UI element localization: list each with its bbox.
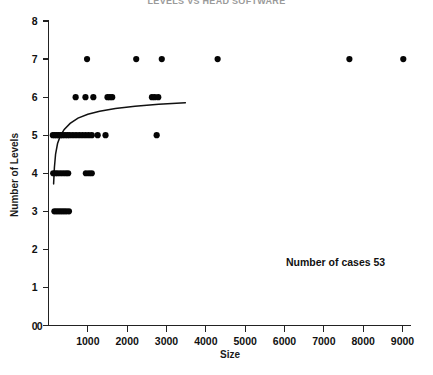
data-point (95, 132, 101, 138)
x-tick-label: 4000 (194, 335, 218, 347)
data-point (155, 94, 161, 100)
x-tick-label: 9000 (391, 335, 415, 347)
data-point (89, 170, 95, 176)
y-tick-label: 4 (32, 167, 38, 179)
y-tick-label: 8 (32, 15, 38, 27)
axis-lines (49, 21, 412, 326)
plot-canvas: 012345678 010002000300040005000600070008… (0, 0, 433, 375)
fit-curve (54, 103, 186, 184)
y-tick-label: 3 (32, 205, 38, 217)
x-tick-label: 1000 (76, 335, 100, 347)
data-point (109, 94, 115, 100)
x-tick-label: 7000 (312, 335, 336, 347)
x-tick-label: 6000 (273, 335, 297, 347)
y-axis-label: Number of Levels (9, 133, 20, 217)
y-tick-label: 7 (32, 53, 38, 65)
x-axis-ticks (88, 326, 403, 332)
data-points (50, 56, 407, 214)
x-tick-label: 2000 (115, 335, 139, 347)
data-point (73, 94, 79, 100)
x-tick-label: 8000 (351, 335, 375, 347)
data-point (66, 208, 72, 214)
data-point (215, 56, 221, 62)
data-point (133, 56, 139, 62)
x-axis-tick-labels: 0100020003000400050006000700080009000 (37, 320, 415, 347)
data-point (159, 56, 165, 62)
cases-annotation: Number of cases 53 (286, 256, 385, 268)
data-point (90, 94, 96, 100)
data-point (346, 56, 352, 62)
y-axis-ticks (43, 21, 49, 326)
y-axis-tick-labels: 012345678 (32, 15, 38, 332)
data-point (84, 56, 90, 62)
axis-frame (49, 21, 412, 326)
y-tick-label: 6 (32, 91, 38, 103)
data-point (154, 132, 160, 138)
data-point (65, 170, 71, 176)
data-point (400, 56, 406, 62)
data-point (82, 94, 88, 100)
x-axis-label: Size (220, 349, 240, 360)
y-tick-label: 2 (32, 243, 38, 255)
data-point (89, 132, 95, 138)
scatter-plot-figure: LEVELS VS HEAD SOFTWARE 012345678 010002… (0, 0, 433, 375)
y-tick-label: 5 (32, 129, 38, 141)
x-tick-label: 3000 (155, 335, 179, 347)
x-tick-label: 5000 (233, 335, 257, 347)
y-tick-label: 1 (32, 281, 38, 293)
data-point (102, 132, 108, 138)
x-tick-label-zero: 0 (37, 320, 43, 332)
